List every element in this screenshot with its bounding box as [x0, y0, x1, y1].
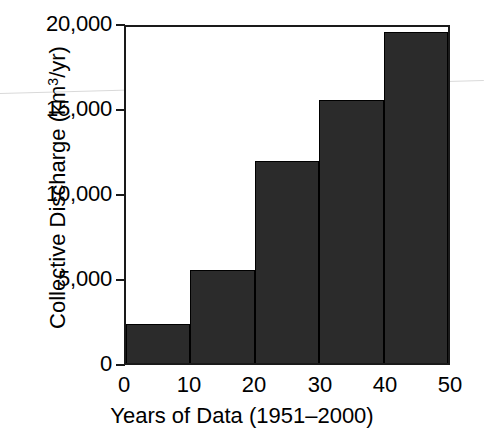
x-tick-label-30: 30 [290, 373, 350, 397]
bar-20-30 [255, 161, 319, 363]
x-tick-label-40: 40 [355, 373, 415, 397]
bar-10-20 [190, 270, 254, 363]
bar-0-10 [126, 324, 190, 363]
y-tick-label-0: 0 [100, 353, 112, 375]
x-tick-label-10: 10 [159, 373, 219, 397]
plot-area [124, 25, 450, 365]
bar-series [126, 27, 448, 363]
y-axis-title-tail: /yr) [45, 46, 70, 78]
x-tick-label-0: 0 [94, 373, 154, 397]
chart-figure: 0 5,000 10,000 15,000 20,000 Collective … [0, 0, 484, 440]
x-tick-label-50: 50 [420, 373, 480, 397]
bar-30-40 [319, 100, 383, 363]
x-axis-title: Years of Data (1951–2000) [0, 404, 484, 428]
y-axis-title-base: Collective Discharge (km [45, 86, 70, 329]
y-axis-title: Collective Discharge (km3/yr) [41, 18, 70, 358]
bar-40-50 [384, 32, 448, 363]
y-axis-title-superscript: 3 [45, 78, 61, 86]
x-tick-label-20: 20 [224, 373, 284, 397]
